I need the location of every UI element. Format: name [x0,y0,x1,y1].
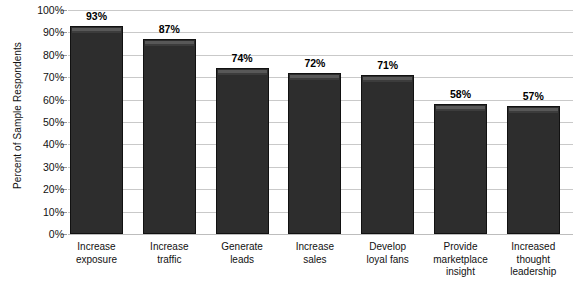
bar-highlight-secondary [363,80,412,82]
x-axis-label-line: marketplace [422,254,500,267]
bar-highlight-secondary [72,31,121,33]
x-axis-label-line: Increase [130,241,208,254]
x-axis-category-label: Increasesales [276,241,354,266]
x-axis-label-line: sales [276,254,354,267]
bar-highlight-secondary [218,73,267,75]
bar-chart: Percent of Sample Respondents 0%10%20%30… [0,0,583,282]
x-axis-label-line: insight [422,266,500,279]
bar[interactable] [434,104,487,234]
y-axis-tick-label: 50% [18,116,64,128]
bar-value-label: 87% [134,23,204,35]
x-axis-label-line: Increase [276,241,354,254]
x-axis-label-line: Increase [58,241,136,254]
y-axis-tick-label: 80% [18,49,64,61]
x-axis-label-line: Increased [494,241,572,254]
bar-value-label: 74% [207,52,277,64]
bar-value-label: 58% [426,88,496,100]
x-axis-category-label: Increasetraffic [130,241,208,266]
x-axis-label-line: Provide [422,241,500,254]
y-axis-tick-label: 100% [18,4,64,16]
y-axis-tick-label: 70% [18,71,64,83]
x-axis-label-line: Generate [203,241,281,254]
bar[interactable] [361,75,414,234]
plot-area [68,10,573,234]
x-axis-label-line: Develop [349,241,427,254]
x-axis-label-line: traffic [130,254,208,267]
x-axis-label-line: leadership [494,266,572,279]
x-axis-label-line: thought [494,254,572,267]
x-axis-category-label: Develoployal fans [349,241,427,266]
x-axis-category-label: Increaseexposure [58,241,136,266]
x-axis-category-label: Providemarketplaceinsight [422,241,500,279]
bar-value-label: 93% [62,10,132,22]
bar[interactable] [143,39,196,234]
y-axis-tick-label: 0% [18,228,64,240]
bar[interactable] [507,106,560,234]
gridline [68,10,573,11]
y-axis-tick-label: 10% [18,206,64,218]
x-axis-label-line: loyal fans [349,254,427,267]
x-axis-label-line: leads [203,254,281,267]
y-axis-tick-label: 30% [18,161,64,173]
x-axis-category-label: Generateleads [203,241,281,266]
x-axis-category-label: Increasedthoughtleadership [494,241,572,279]
bar-highlight-secondary [509,111,558,113]
bar-highlight-secondary [290,78,339,80]
bar-value-label: 72% [280,57,350,69]
y-axis-tick-label: 40% [18,138,64,150]
bar[interactable] [216,68,269,234]
y-axis-tick-label: 60% [18,94,64,106]
gridline [68,234,573,235]
bar-highlight-secondary [145,44,194,46]
bar-value-label: 71% [353,59,423,71]
y-axis-tick-label: 20% [18,183,64,195]
bar-highlight-secondary [436,109,485,111]
bar[interactable] [288,73,341,234]
bar[interactable] [70,26,123,234]
y-axis-tick-label: 90% [18,26,64,38]
bar-value-label: 57% [498,90,568,102]
x-axis-label-line: exposure [58,254,136,267]
